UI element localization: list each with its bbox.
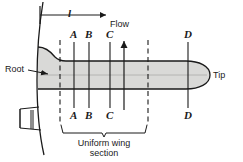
- span-dimension-label: l: [68, 8, 71, 19]
- section-label-top-b: B: [85, 29, 92, 40]
- uniform-section-caption-line2: section: [74, 148, 134, 158]
- section-label-bottom-a: A: [70, 110, 77, 121]
- section-label-bottom-c: C: [106, 110, 113, 121]
- root-label: Root: [5, 64, 24, 74]
- span-dimension-arrow: [40, 6, 106, 24]
- tip-label: Tip: [213, 70, 225, 80]
- uniform-section-brace: [61, 125, 147, 137]
- wing-section-figure: l Flow Root Tip A B C D A B C D Uniform …: [0, 0, 243, 162]
- section-label-top-d: D: [184, 29, 192, 40]
- section-label-top-c: C: [106, 29, 113, 40]
- section-label-bottom-b: B: [85, 110, 92, 121]
- section-label-bottom-d: D: [184, 110, 192, 121]
- uniform-section-caption-line1: Uniform wing: [74, 138, 134, 148]
- section-label-top-a: A: [70, 29, 77, 40]
